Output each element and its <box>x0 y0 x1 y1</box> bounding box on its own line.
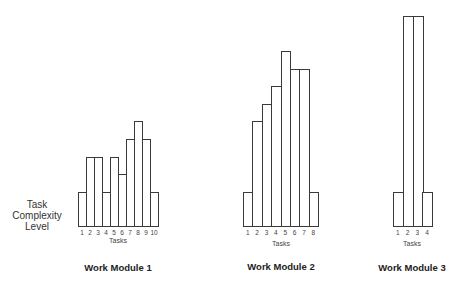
chart-title-module-2: Work Module 2 <box>241 261 321 272</box>
x-tick-label: 3 <box>412 229 422 236</box>
x-axis-label-module-1: Tasks <box>98 237 138 244</box>
x-axis-baseline <box>243 226 319 227</box>
x-tick-label: 1 <box>393 229 403 236</box>
y-axis-label-line: Level <box>2 221 72 232</box>
bar-task-4 <box>422 192 433 227</box>
x-axis-label-module-3: Tasks <box>392 240 432 247</box>
x-tick-label: 2 <box>403 229 413 236</box>
y-axis-label-line: Task <box>2 199 72 210</box>
chart-title-module-3: Work Module 3 <box>372 262 452 273</box>
x-axis-baseline <box>78 226 159 227</box>
bar-task-8 <box>309 192 320 227</box>
y-axis-label-line: Complexity <box>2 210 72 221</box>
x-tick-label: 10 <box>149 229 159 236</box>
x-axis-baseline <box>393 226 433 227</box>
x-axis-label-module-2: Tasks <box>261 240 301 247</box>
x-tick-label: 4 <box>422 229 432 236</box>
bar-task-10 <box>150 192 159 227</box>
y-axis-label: Task Complexity Level <box>2 199 72 232</box>
chart-title-module-1: Work Module 1 <box>78 262 158 273</box>
x-tick-label: 8 <box>308 229 318 236</box>
